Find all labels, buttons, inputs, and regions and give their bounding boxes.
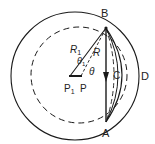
geometry-diagram: B A C D R1 R θ1 θ P1 P (0, 0, 155, 144)
label-p: P (80, 83, 87, 94)
label-p1: P1 (64, 83, 75, 95)
arrow-down-icon (103, 72, 109, 82)
label-b: B (101, 7, 108, 19)
label-theta1: θ1 (77, 56, 86, 67)
label-d: D (141, 70, 149, 82)
label-c: C (113, 70, 120, 81)
point-b (104, 26, 107, 29)
label-r1: R1 (70, 44, 81, 56)
label-a: A (102, 127, 110, 139)
label-theta: θ (89, 66, 95, 77)
label-r: R (93, 47, 100, 58)
